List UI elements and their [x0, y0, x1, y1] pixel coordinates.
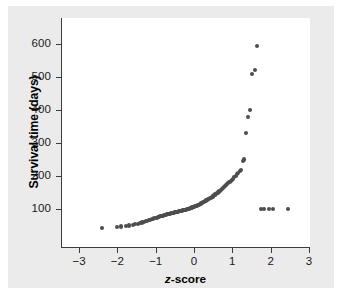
x-axis-label: z-score: [61, 272, 310, 286]
y-tick-mark: [56, 77, 61, 78]
y-tick-label: 300: [32, 137, 52, 149]
scatter-point: [239, 168, 243, 172]
y-tick-label: 500: [32, 71, 52, 83]
y-tick-mark: [56, 143, 61, 144]
x-axis-label-rest: -score: [171, 272, 206, 286]
x-tick-mark: [156, 248, 157, 253]
scatter-point: [248, 108, 252, 112]
scatter-point: [250, 72, 254, 76]
plot-area: [61, 18, 310, 248]
x-tick-mark: [309, 248, 310, 253]
x-tick-label: 3: [294, 256, 324, 268]
x-tick-mark: [79, 248, 80, 253]
scatter-point: [246, 115, 250, 119]
x-tick-mark: [232, 248, 233, 253]
scatter-point: [100, 226, 104, 230]
scatter-points-layer: [62, 18, 310, 247]
x-tick-label: 0: [179, 256, 209, 268]
scatter-point: [119, 224, 123, 228]
y-tick-label: 100: [32, 203, 52, 215]
scatter-point: [242, 157, 246, 161]
x-tick-label: −1: [141, 256, 171, 268]
y-tick-label: 600: [32, 38, 52, 50]
y-tick-mark: [56, 44, 61, 45]
y-tick-mark: [56, 110, 61, 111]
y-tick-label: 200: [32, 170, 52, 182]
scatter-point: [271, 207, 275, 211]
x-tick-label: −2: [102, 256, 132, 268]
scatter-point: [262, 207, 266, 211]
scatter-point: [244, 131, 248, 135]
x-tick-label: 1: [217, 256, 247, 268]
y-tick-mark: [56, 209, 61, 210]
x-tick-mark: [117, 248, 118, 253]
x-tick-mark: [194, 248, 195, 253]
y-axis-label: Survival time (days): [27, 37, 41, 227]
x-tick-mark: [271, 248, 272, 253]
y-tick-mark: [56, 176, 61, 177]
x-tick-label: −3: [64, 256, 94, 268]
x-tick-label: 2: [256, 256, 286, 268]
scatter-point: [286, 207, 290, 211]
y-tick-label: 400: [32, 104, 52, 116]
scatter-point: [253, 68, 257, 72]
chart-figure: Survival time (days) 100200300400500600 …: [0, 0, 342, 300]
scatter-point: [255, 44, 259, 48]
